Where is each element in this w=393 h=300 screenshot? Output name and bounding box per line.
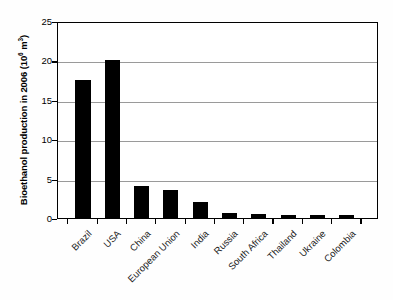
y-axis-title-unit: m bbox=[18, 41, 29, 52]
y-tick-label: 0 bbox=[22, 213, 52, 224]
y-tick-label: 5 bbox=[22, 174, 52, 185]
x-category-label-text: India bbox=[189, 228, 211, 250]
x-category-label-text: USA bbox=[101, 228, 123, 250]
y-tick-label: 25 bbox=[22, 16, 52, 27]
y-axis-title-paren: ) bbox=[18, 35, 29, 38]
y-tick-label: 10 bbox=[22, 134, 52, 145]
y-tick-label: 15 bbox=[22, 95, 52, 106]
x-category-label-text: China bbox=[127, 228, 152, 253]
x-category-label-text: European Union bbox=[125, 228, 181, 284]
y-tick-label: 20 bbox=[22, 55, 52, 66]
bar-chart-figure: Bioethanol production in 2006 (106 m3) 0… bbox=[0, 0, 393, 300]
y-axis-title: Bioethanol production in 2006 (106 m3) bbox=[18, 15, 34, 225]
bar bbox=[134, 186, 149, 218]
y-tick-mark bbox=[52, 219, 57, 220]
y-axis-title-exponent-3: 3 bbox=[17, 38, 24, 42]
bar bbox=[105, 60, 120, 218]
x-tick-mark bbox=[67, 219, 68, 224]
bar bbox=[222, 213, 237, 218]
x-category-label-text: Brazil bbox=[69, 228, 94, 253]
bar bbox=[75, 80, 90, 218]
